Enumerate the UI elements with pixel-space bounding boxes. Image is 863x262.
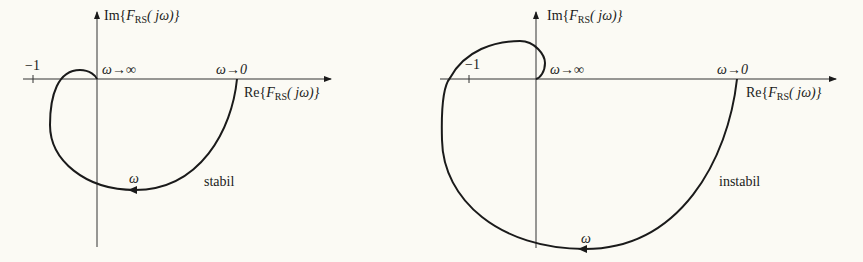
- right-omega-infinity-label: ω→∞: [550, 63, 584, 77]
- right-nyquist-curve: [442, 41, 737, 249]
- right-status-label: instabil: [719, 175, 760, 189]
- right-minus-one-label: −1: [465, 58, 480, 72]
- left-minus-one-label: −1: [25, 59, 40, 73]
- nyquist-diagrams: [0, 0, 863, 262]
- left-omega-infinity-label: ω→∞: [102, 63, 136, 77]
- right-direction-arrow: [578, 245, 587, 253]
- left-plot: [23, 12, 331, 247]
- left-omega-zero-label: ω→0: [216, 63, 247, 77]
- left-nyquist-curve: [50, 70, 237, 190]
- left-status-label: stabil: [204, 175, 234, 189]
- left-omega-label: ω: [129, 172, 139, 186]
- right-re-axis-label: Re{FRS( jω)}: [746, 86, 821, 102]
- right-omega-label: ω: [581, 232, 591, 246]
- right-omega-zero-label: ω→0: [717, 63, 748, 77]
- left-im-axis-label: Im{FRS( jω)}: [104, 9, 179, 25]
- left-re-axis-label: Re{FRS( jω)}: [244, 86, 319, 102]
- right-im-axis-label: Im{FRS( jω)}: [547, 9, 622, 25]
- left-direction-arrow: [128, 186, 137, 194]
- right-plot: [440, 12, 836, 253]
